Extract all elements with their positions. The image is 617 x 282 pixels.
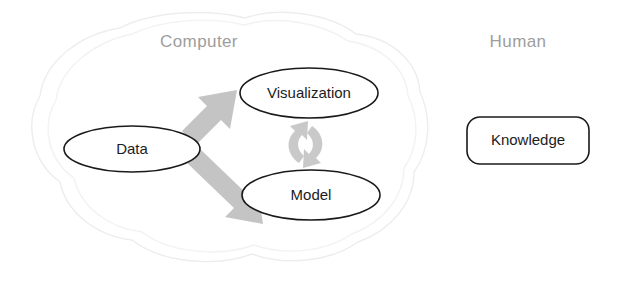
node-data-label: Data [116, 140, 148, 157]
node-model[interactable]: Model [242, 170, 380, 220]
node-visualization[interactable]: Visualization [240, 68, 378, 118]
node-visualization-label: Visualization [267, 84, 351, 101]
node-knowledge[interactable]: Knowledge [467, 117, 589, 164]
region-label-human: Human [490, 32, 547, 51]
node-knowledge-label: Knowledge [491, 131, 565, 148]
arrow-visualization-model-cycle [289, 121, 323, 168]
region-label-computer: Computer [160, 32, 238, 51]
node-model-label: Model [291, 186, 332, 203]
diagram-canvas: Computer Human Visualization Data [0, 0, 617, 282]
diagram-svg: Computer Human Visualization Data [0, 0, 617, 282]
node-data[interactable]: Data [64, 126, 200, 172]
